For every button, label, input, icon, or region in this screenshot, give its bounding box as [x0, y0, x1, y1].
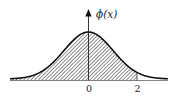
- normal-curve-figure: ϕ(x) 0 2: [0, 0, 179, 102]
- x-tick-label-2: 2: [135, 83, 141, 94]
- y-axis-arrow-icon: [85, 9, 91, 17]
- y-axis-label: ϕ(x): [96, 8, 117, 20]
- x-tick-label-0: 0: [86, 83, 92, 94]
